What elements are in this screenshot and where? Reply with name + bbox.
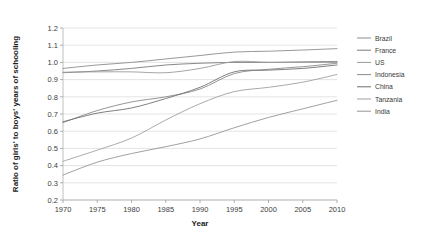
x-tick-label: 1990 <box>192 205 209 214</box>
x-tick-label: 1980 <box>123 205 140 214</box>
y-tick-label: 0.9 <box>48 75 58 84</box>
legend-label-india: India <box>375 108 390 115</box>
legend-label-tanzania: Tanzania <box>375 96 402 103</box>
y-tick-label: 1.0 <box>48 58 58 67</box>
x-tick-label: 1995 <box>226 205 243 214</box>
x-axis-title: Year <box>192 219 209 228</box>
y-tick-label: 0.5 <box>48 144 58 153</box>
x-tick-label: 2005 <box>294 205 311 214</box>
x-tick-label: 1975 <box>89 205 106 214</box>
legend-label-china: China <box>375 83 393 90</box>
series-line-india <box>63 100 337 175</box>
x-tick-label: 1985 <box>157 205 174 214</box>
y-tick-label: 0.4 <box>48 161 58 170</box>
series-line-china <box>63 65 337 122</box>
y-axis-title: Ratio of girls' to boys' years of school… <box>11 36 20 192</box>
series-line-brazil <box>63 49 337 69</box>
y-tick-label: 1.1 <box>48 41 58 50</box>
legend-label-france: France <box>375 47 396 54</box>
x-tick-label: 1970 <box>55 205 72 214</box>
chart-container: 0.20.30.40.50.60.70.80.91.01.11.21970197… <box>0 0 426 252</box>
y-tick-label: 0.3 <box>48 179 58 188</box>
y-tick-label: 0.2 <box>48 196 58 205</box>
legend-label-us: US <box>375 59 385 66</box>
y-tick-label: 1.2 <box>48 24 58 33</box>
x-tick-label: 2010 <box>329 205 346 214</box>
legend-label-indonesia: Indonesia <box>375 71 405 78</box>
y-tick-label: 0.7 <box>48 110 58 119</box>
y-tick-label: 0.8 <box>48 93 58 102</box>
legend-label-brazil: Brazil <box>375 35 392 42</box>
line-chart: 0.20.30.40.50.60.70.80.91.01.11.21970197… <box>0 0 426 252</box>
y-tick-label: 0.6 <box>48 127 58 136</box>
x-tick-label: 2000 <box>260 205 277 214</box>
